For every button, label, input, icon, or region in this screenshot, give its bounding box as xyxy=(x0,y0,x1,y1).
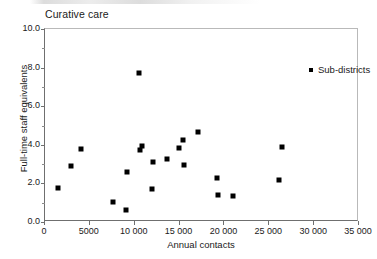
data-point xyxy=(124,208,129,213)
data-point xyxy=(181,163,186,168)
x-axis-tick xyxy=(44,221,45,225)
data-point xyxy=(150,159,155,164)
chart-legend: Sub-districts xyxy=(309,64,370,75)
y-axis-tick-label: 6.0 xyxy=(14,100,40,110)
data-point xyxy=(140,143,145,148)
plot-area: Sub-districts xyxy=(44,28,358,221)
y-axis-tick xyxy=(41,145,45,146)
data-point xyxy=(196,130,201,135)
data-point xyxy=(279,145,284,150)
x-axis-tick xyxy=(358,221,359,225)
data-point xyxy=(149,186,154,191)
curative-care-scatter-figure: Curative care Full-time staff equivalent… xyxy=(0,0,377,259)
y-axis-tick-label: 2.0 xyxy=(14,177,40,187)
x-axis-tick-label: 10 000 xyxy=(120,226,148,236)
y-axis-tick xyxy=(41,106,45,107)
x-axis-tick xyxy=(223,221,224,225)
x-axis-tick xyxy=(313,221,314,225)
x-axis-tick xyxy=(268,221,269,225)
legend-square-marker-icon xyxy=(309,68,313,72)
page-scan-artifact xyxy=(30,0,260,4)
x-axis-tick xyxy=(89,221,90,225)
x-axis-tick xyxy=(179,221,180,225)
x-axis-tick-label: 35 000 xyxy=(344,226,372,236)
y-axis-tick xyxy=(41,68,45,69)
data-point xyxy=(215,193,220,198)
y-axis-minor-tick xyxy=(42,203,45,204)
y-axis-tick-label: 8.0 xyxy=(14,62,40,72)
y-axis-tick xyxy=(41,29,45,30)
y-axis-tick-label: 0.0 xyxy=(14,216,40,226)
x-axis-tick-label: 30 000 xyxy=(299,226,327,236)
data-point xyxy=(231,193,236,198)
data-point xyxy=(125,169,130,174)
data-point xyxy=(79,146,84,151)
y-axis-tick-label: 10.0 xyxy=(14,23,40,33)
x-axis-tick-label: 5000 xyxy=(79,226,99,236)
x-axis-title: Annual contacts xyxy=(44,239,358,250)
data-point xyxy=(55,185,60,190)
data-point xyxy=(214,176,219,181)
x-axis-tick-label: 20 000 xyxy=(210,226,238,236)
chart-title: Curative care xyxy=(45,8,109,20)
y-axis-minor-tick xyxy=(42,48,45,49)
data-point xyxy=(110,200,115,205)
y-axis-minor-tick xyxy=(42,126,45,127)
x-axis-tick-label: 0 xyxy=(41,226,46,236)
x-axis-tick-label: 15 000 xyxy=(165,226,193,236)
data-point xyxy=(137,71,142,76)
data-point xyxy=(176,145,181,150)
x-axis-tick-label: 25 000 xyxy=(255,226,283,236)
y-axis-minor-tick xyxy=(42,87,45,88)
y-axis-minor-tick xyxy=(42,164,45,165)
data-point xyxy=(180,137,185,142)
y-axis-tick-labels: 0.02.04.06.08.010.0 xyxy=(8,28,40,221)
data-point xyxy=(165,157,170,162)
legend-label-sub-districts: Sub-districts xyxy=(318,64,370,75)
y-axis-tick xyxy=(41,183,45,184)
x-axis-tick xyxy=(134,221,135,225)
data-point xyxy=(277,178,282,183)
data-points-layer xyxy=(45,29,357,220)
y-axis-tick-label: 4.0 xyxy=(14,139,40,149)
data-point xyxy=(69,164,74,169)
